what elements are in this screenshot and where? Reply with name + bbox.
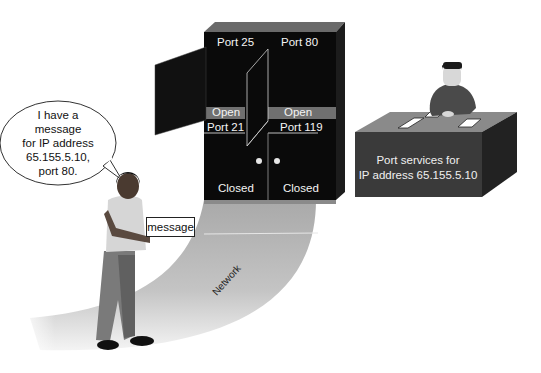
port-21-state: Closed (218, 182, 254, 194)
speech-bubble-text: I have a message for IP address 65.155.5… (3, 108, 113, 178)
port-80-state: Open (284, 106, 312, 118)
port-119-label: Port 119 (280, 121, 323, 133)
port-25-state: Open (212, 106, 240, 118)
port-cabinet (155, 22, 345, 204)
port-25-door[interactable] (155, 47, 206, 135)
diagram-canvas (0, 0, 541, 373)
desk-caption: Port services for IP address 65.155.5.10 (353, 153, 483, 183)
clerk-figure (430, 62, 476, 117)
door-knob-icon (256, 158, 262, 164)
port-80-label: Port 80 (281, 36, 318, 48)
door-knob-icon (274, 158, 280, 164)
message-envelope: message (146, 217, 195, 237)
port-119-state: Closed (283, 182, 319, 194)
port-25-label: Port 25 (217, 36, 254, 48)
port-21-label: Port 21 (207, 121, 244, 133)
